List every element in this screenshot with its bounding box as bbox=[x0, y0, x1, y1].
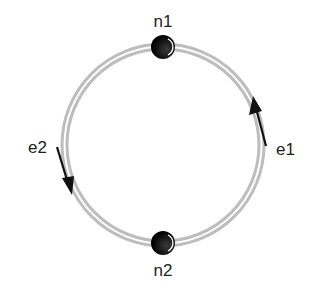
node-n1 bbox=[151, 35, 175, 59]
node-n2 bbox=[151, 231, 175, 255]
edge-label-e2: e2 bbox=[28, 138, 47, 157]
ring-edges bbox=[62, 44, 264, 246]
node-label-n1: n1 bbox=[154, 12, 173, 31]
node-label-n2: n2 bbox=[154, 261, 173, 280]
graph-diagram: n1 n2 e1 e2 bbox=[0, 0, 316, 290]
diagram-svg: n1 n2 e1 e2 bbox=[0, 0, 316, 290]
edge-label-e1: e1 bbox=[276, 140, 295, 159]
